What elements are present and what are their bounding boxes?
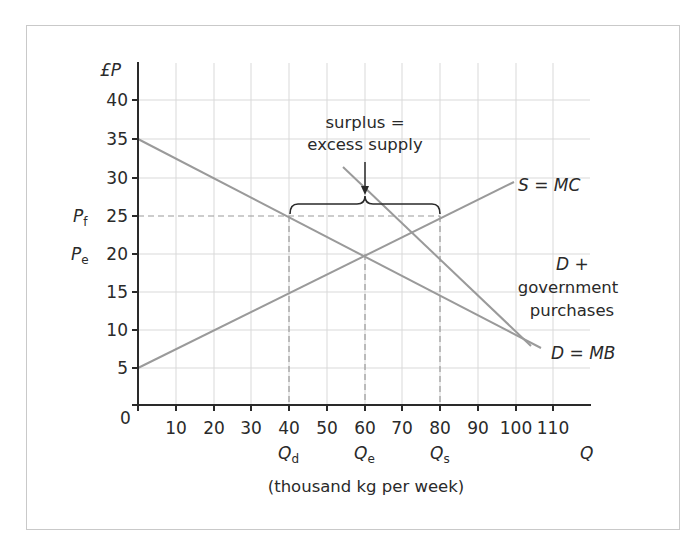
origin-label: 0 bbox=[120, 408, 131, 428]
x-tick-labels: 10 20 30 40 50 60 70 80 90 100 110 bbox=[165, 418, 569, 438]
qs-label: Qs bbox=[430, 443, 450, 466]
surplus-label-line2: excess supply bbox=[307, 135, 423, 154]
surplus-label-line1: surplus = bbox=[325, 113, 404, 132]
supply-demand-chart: 40 35 30 25 20 15 10 5 £P Pf Pe 0 10 20 … bbox=[0, 0, 688, 555]
x-axis-symbol: Q bbox=[580, 443, 593, 463]
y-tick-labels: 40 35 30 25 20 15 10 5 bbox=[106, 90, 128, 378]
demand-gov-label-line3: purchases bbox=[530, 301, 614, 320]
x-tick-10: 10 bbox=[165, 418, 187, 438]
x-tick-80: 80 bbox=[429, 418, 451, 438]
y-tick-20: 20 bbox=[106, 244, 128, 264]
x-tick-90: 90 bbox=[467, 418, 489, 438]
x-tick-100: 100 bbox=[500, 418, 532, 438]
x-tick-70: 70 bbox=[391, 418, 413, 438]
pe-label: Pe bbox=[71, 244, 89, 267]
y-tick-5: 5 bbox=[117, 358, 128, 378]
y-tick-40: 40 bbox=[106, 90, 128, 110]
qd-label: Qd bbox=[278, 443, 299, 466]
demand-gov-curve bbox=[343, 167, 531, 346]
x-tick-60: 60 bbox=[354, 418, 376, 438]
y-axis-label: £P bbox=[100, 60, 122, 80]
pf-label: Pf bbox=[73, 206, 88, 229]
demand-curve bbox=[138, 139, 541, 348]
x-tick-50: 50 bbox=[316, 418, 338, 438]
y-tick-35: 35 bbox=[106, 129, 128, 149]
x-tick-30: 30 bbox=[240, 418, 262, 438]
x-tick-20: 20 bbox=[203, 418, 225, 438]
x-tick-110: 110 bbox=[537, 418, 569, 438]
y-tick-15: 15 bbox=[106, 282, 128, 302]
y-tick-30: 30 bbox=[106, 168, 128, 188]
y-tick-10: 10 bbox=[106, 320, 128, 340]
demand-gov-label-line2: government bbox=[518, 278, 619, 297]
demand-curve-label: D = MB bbox=[551, 343, 615, 363]
supply-curve-label: S = MC bbox=[518, 175, 581, 195]
x-axis-unit-label: (thousand kg per week) bbox=[268, 477, 465, 496]
x-tick-40: 40 bbox=[278, 418, 300, 438]
demand-gov-label-line1: D + bbox=[556, 254, 589, 274]
y-tick-25: 25 bbox=[106, 206, 128, 226]
qe-label: Qe bbox=[354, 443, 375, 466]
